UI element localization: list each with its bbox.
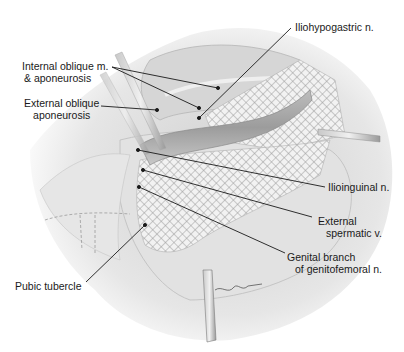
label-internal-oblique-line1: Internal oblique m. bbox=[22, 60, 108, 72]
label-iliohypogastric: Iliohypogastric n. bbox=[295, 21, 374, 33]
anatomical-illustration: Internal oblique m. & aponeurosis Extern… bbox=[0, 0, 404, 352]
label-external-oblique: External oblique aponeurosis bbox=[24, 97, 99, 121]
label-genital-branch-line1: Genital branch bbox=[287, 251, 382, 263]
label-pubic-tubercle: Pubic tubercle bbox=[15, 280, 82, 292]
label-external-spermatic-line1: External bbox=[318, 215, 382, 227]
label-external-spermatic-line2: spermatic v. bbox=[318, 227, 382, 239]
label-external-oblique-line1: External oblique bbox=[24, 97, 99, 109]
label-internal-oblique: Internal oblique m. & aponeurosis bbox=[22, 60, 108, 84]
label-external-oblique-line2: aponeurosis bbox=[24, 109, 99, 121]
label-internal-oblique-line2: & aponeurosis bbox=[22, 72, 108, 84]
label-pubic-tubercle-line1: Pubic tubercle bbox=[15, 280, 82, 292]
label-genital-branch: Genital branch of genitofemoral n. bbox=[287, 251, 382, 275]
label-external-spermatic: External spermatic v. bbox=[318, 215, 382, 239]
surgical-field-drawing bbox=[0, 0, 404, 352]
label-genital-branch-line2: of genitofemoral n. bbox=[287, 263, 382, 275]
label-ilioinguinal-line1: Ilioinguinal n. bbox=[328, 181, 389, 193]
label-ilioinguinal: Ilioinguinal n. bbox=[328, 181, 389, 193]
label-iliohypogastric-line1: Iliohypogastric n. bbox=[295, 21, 374, 33]
